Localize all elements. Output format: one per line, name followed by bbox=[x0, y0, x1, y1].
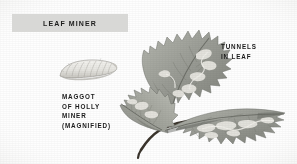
tunnels-caption-line-2: IN LEAF bbox=[221, 52, 257, 62]
tunnels-caption-line-1: TUNNELS bbox=[221, 42, 257, 52]
maggot-caption-line-1: MAGGOT bbox=[62, 92, 111, 102]
maggot-caption-line-3: MINER bbox=[62, 111, 111, 121]
maggot-caption-line-4: (MAGNIFIED) bbox=[62, 121, 111, 131]
tunnels-caption: TUNNELS IN LEAF bbox=[221, 42, 257, 61]
illustration-plate: LEAF MINER MAGGOT OF HOLLY MINER (MAGNIF… bbox=[0, 0, 297, 164]
title-banner: LEAF MINER bbox=[12, 14, 128, 32]
title-banner-label: LEAF MINER bbox=[43, 19, 97, 26]
maggot-caption: MAGGOT OF HOLLY MINER (MAGNIFIED) bbox=[62, 92, 111, 130]
maggot-caption-line-2: OF HOLLY bbox=[62, 102, 111, 112]
